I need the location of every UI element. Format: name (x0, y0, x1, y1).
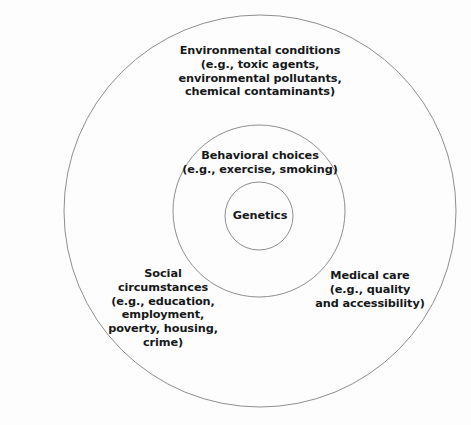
label-social-circumstances: Social circumstances (e.g., education, e… (78, 267, 248, 350)
label-medical-care: Medical care (e.g., quality and accessib… (290, 269, 450, 310)
label-environmental-conditions: Environmental conditions (e.g., toxic ag… (135, 44, 385, 99)
label-genetics: Genetics (209, 209, 311, 223)
diagram-canvas: Environmental conditions (e.g., toxic ag… (0, 0, 471, 425)
label-behavioral-choices: Behavioral choices (e.g., exercise, smok… (154, 149, 366, 177)
